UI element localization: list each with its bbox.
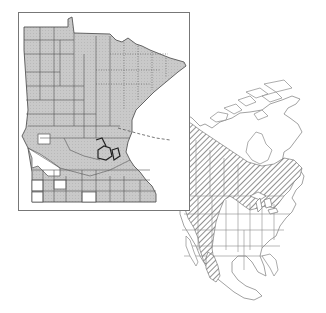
minnesota-inset xyxy=(19,13,190,211)
range-map-figure xyxy=(0,0,326,313)
